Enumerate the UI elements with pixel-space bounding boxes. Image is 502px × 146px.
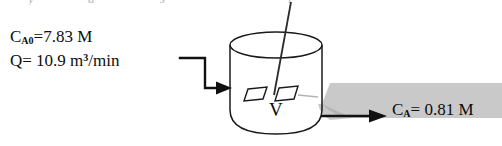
outlet-concentration-value: = 0.81 M	[411, 100, 474, 119]
vessel-volume-label: V	[269, 100, 283, 119]
impeller-shaft	[274, 2, 291, 95]
outlet-concentration-text: CA= 0.81 M	[392, 100, 474, 120]
reactor-drawing	[0, 0, 502, 146]
outlet-concentration-subscript: A	[403, 108, 410, 119]
impeller-smudge	[298, 95, 318, 97]
outlet-concentration-symbol: C	[392, 100, 403, 119]
inlet-pipe	[180, 58, 219, 88]
tank-top-rim	[230, 32, 322, 58]
cstr-figure: y a s l CA0=7.83 M Q= 10.9 m3/min	[0, 0, 502, 146]
impeller-blade-left	[244, 87, 267, 101]
